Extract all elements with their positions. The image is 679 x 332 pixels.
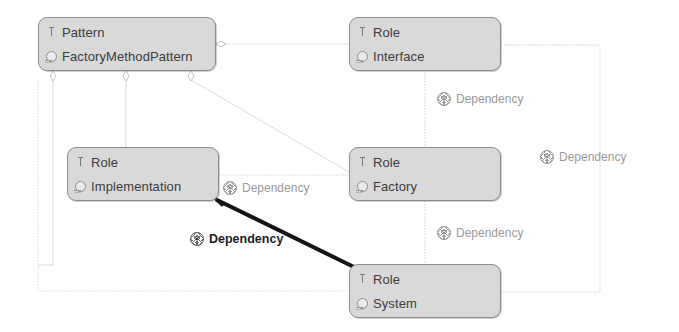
node-stereotype-label: Role [373,155,400,170]
edge-label-dependency-interface-system[interactable]: Dependency [540,150,626,164]
node-stereotype-label: Role [373,25,400,40]
node-stereotype-row: Pattern [39,18,215,44]
node-name-row: FactoryMethodPattern [39,44,215,68]
stereotype-icon [355,272,370,287]
node-stereotype-label: Role [91,155,118,170]
stereotype-icon [73,155,88,170]
node-name-row: Factory [350,174,500,198]
stereotype-icon [44,25,59,40]
node-name-label: Interface [373,49,425,64]
element-icon [355,179,370,194]
node-stereotype-row: Role [350,148,500,174]
node-stereotype-row: Role [350,265,500,291]
node-name-row: Implementation [68,174,218,198]
edge-label-text: Dependency [242,182,309,195]
node-stereotype-label: Pattern [62,25,105,40]
edge-label-text: Dependency [559,151,626,164]
node-name-label: FactoryMethodPattern [62,49,193,64]
element-icon [44,49,59,64]
edge-label-text: Dependency [456,93,523,106]
edge-label-dependency-implementation-factory[interactable]: Dependency [223,181,309,195]
edge-aggregation-pattern-factory[interactable] [123,71,129,147]
node-stereotype-row: Role [68,148,218,174]
dependency-icon [223,181,237,195]
node-role-interface[interactable]: Role Interface [349,17,501,71]
dependency-icon [190,232,204,246]
node-name-row: Interface [350,44,500,68]
node-stereotype-row: Role [350,18,500,44]
edge-label-dependency-implementation-system-selected[interactable]: Dependency [190,232,283,246]
node-role-implementation[interactable]: Role Implementation [67,147,219,201]
node-name-label: System [373,296,417,311]
edge-label-text: Dependency [456,227,523,240]
edge-dependency-interface-system[interactable] [501,45,600,292]
element-icon [355,49,370,64]
dependency-icon [540,150,554,164]
dependency-icon [437,226,451,240]
node-name-row: System [350,291,500,315]
node-name-label: Factory [373,179,417,194]
element-icon [355,296,370,311]
stereotype-icon [355,25,370,40]
edge-aggregation-pattern-implementation[interactable] [38,71,56,265]
node-pattern-factorymethodpattern[interactable]: Pattern FactoryMethodPattern [38,17,216,71]
node-role-system[interactable]: Role System [349,264,501,318]
node-stereotype-label: Role [373,272,400,287]
diagram-canvas[interactable]: Pattern FactoryMethodPattern Role Interf… [0,0,679,332]
edge-label-dependency-interface-factory[interactable]: Dependency [437,92,523,106]
edge-aggregation-pattern-interface[interactable] [216,41,349,47]
node-name-label: Implementation [91,179,181,194]
edge-label-dependency-factory-system[interactable]: Dependency [437,226,523,240]
edge-label-text: Dependency [209,233,283,246]
stereotype-icon [355,155,370,170]
dependency-icon [437,92,451,106]
element-icon [73,179,88,194]
node-role-factory[interactable]: Role Factory [349,147,501,201]
